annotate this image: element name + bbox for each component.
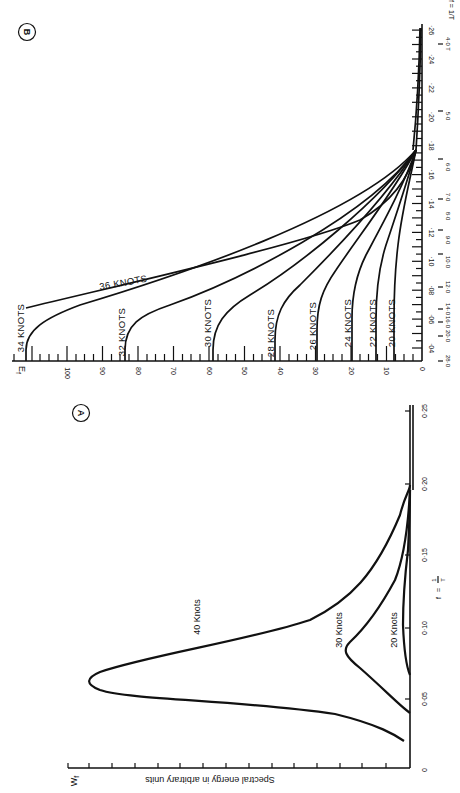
energy-axis-label: Spectral energy in arbitrary units: [145, 775, 275, 785]
svg-text:·18: ·18: [428, 141, 435, 151]
svg-text:60: 60: [206, 367, 213, 375]
svg-text:10·0: 10·0: [445, 256, 451, 269]
svg-text:34 KNOTS: 34 KNOTS: [15, 304, 26, 352]
svg-text:·08: ·08: [428, 285, 435, 295]
svg-text:20·0: 20·0: [445, 330, 451, 343]
svg-text:·24: ·24: [428, 54, 435, 64]
svg-text:A: A: [76, 410, 86, 417]
panel-a-curves: [89, 485, 410, 741]
svg-text:f = 1/T: f = 1/T: [448, 0, 455, 21]
figure: B: [0, 0, 460, 793]
svg-text:T: T: [440, 578, 446, 582]
svg-text:16·0: 16·0: [445, 316, 451, 329]
svg-text:20 Knots: 20 Knots: [389, 612, 399, 648]
panel-a: A: [68, 404, 446, 786]
svg-text:0·10: 0·10: [421, 621, 428, 635]
svg-text:28 KNOTS: 28 KNOTS: [265, 309, 276, 357]
svg-text:0: 0: [419, 367, 426, 371]
svg-text:14·0: 14·0: [445, 303, 451, 316]
curve-40-knots: [89, 485, 410, 741]
svg-text:40 Knots: 40 Knots: [192, 599, 202, 635]
svg-text:0·05: 0·05: [421, 692, 428, 706]
svg-text:24 KNOTS: 24 KNOTS: [342, 299, 353, 347]
svg-text:·06: ·06: [428, 314, 435, 324]
svg-text:30: 30: [312, 367, 319, 375]
frequency-axis-b-ticks: [412, 30, 422, 348]
svg-text:·14: ·14: [428, 198, 435, 208]
panel-b-badge: B: [19, 24, 36, 41]
svg-text:28·0: 28·0: [445, 355, 451, 368]
curve-34-knots: [26, 150, 416, 361]
svg-text:Ef: Ef: [16, 366, 28, 374]
svg-text:90: 90: [99, 367, 106, 375]
curve-20-knots: [403, 490, 410, 675]
svg-text:0: 0: [421, 768, 428, 772]
svg-text:10: 10: [383, 367, 390, 375]
svg-text:·20: ·20: [428, 112, 435, 122]
panel-a-badge: A: [73, 405, 90, 422]
svg-text:50: 50: [241, 367, 248, 375]
svg-text:100: 100: [64, 367, 71, 379]
svg-text:Wf: Wf: [69, 776, 80, 787]
frequency-axis-a-tick-labels: 0 0·05 0·10 0·15 0·20 0·25: [421, 404, 428, 772]
panel-b: B: [12, 0, 455, 379]
svg-text:0·15: 0·15: [421, 548, 428, 562]
svg-text:B: B: [22, 29, 32, 36]
svg-text:4·0 T: 4·0 T: [445, 37, 451, 51]
frequency-axis-a-label: f = 1 T: [431, 576, 446, 599]
svg-text:·16: ·16: [428, 170, 435, 180]
svg-text:80: 80: [135, 367, 142, 375]
svg-text:=: =: [435, 588, 442, 592]
svg-text:1: 1: [431, 578, 437, 582]
svg-text:0·20: 0·20: [421, 477, 428, 491]
curve-30-knots: [346, 490, 410, 713]
energy-axis-symbol: Wf: [69, 776, 80, 787]
svg-text:5·0: 5·0: [445, 112, 451, 121]
frequency-axis-b-tick-labels: ·04 ·06 ·08 ·10 ·12 ·14 ·16 ·18 ·20 ·22 …: [428, 25, 435, 353]
svg-text:70: 70: [170, 367, 177, 375]
svg-text:20 KNOTS: 20 KNOTS: [386, 299, 397, 347]
svg-text:·04: ·04: [428, 343, 435, 353]
svg-text:6·0: 6·0: [445, 163, 451, 172]
svg-text:26 KNOTS: 26 KNOTS: [307, 302, 318, 350]
panel-b-curve-labels: 36 KNOTS 34 KNOTS 32 KNOTS 30 KNOTS 28 K…: [15, 273, 397, 357]
svg-text:30 Knots: 30 Knots: [334, 612, 344, 648]
svg-text:f: f: [435, 597, 442, 599]
svg-text:·26: ·26: [428, 25, 435, 35]
svg-text:9·0: 9·0: [445, 236, 451, 245]
svg-text:·12: ·12: [428, 227, 435, 237]
period-axis-labels: 28·0 20·0 16·0 14·0 12·0 10·0 9·0 8·0 7·…: [438, 0, 455, 368]
ef-axis-tick-labels: 100 90 80 70 60 50 40 30 20 10 0 Ef: [16, 366, 426, 379]
ef-symbol: Ef: [16, 366, 28, 374]
svg-text:30 KNOTS: 30 KNOTS: [202, 299, 213, 347]
svg-text:20: 20: [348, 367, 355, 375]
svg-text:7·0: 7·0: [445, 193, 451, 202]
svg-text:32 KNOTS: 32 KNOTS: [116, 308, 127, 356]
svg-text:40: 40: [277, 367, 284, 375]
panel-b-curves: [26, 28, 421, 361]
svg-text:·10: ·10: [428, 256, 435, 266]
svg-text:0·25: 0·25: [421, 404, 428, 418]
svg-text:36 KNOTS: 36 KNOTS: [98, 273, 148, 292]
svg-text:8·0: 8·0: [445, 212, 451, 221]
svg-text:22 KNOTS: 22 KNOTS: [367, 299, 378, 347]
svg-text:12·0: 12·0: [445, 281, 451, 294]
svg-text:·22: ·22: [428, 83, 435, 93]
